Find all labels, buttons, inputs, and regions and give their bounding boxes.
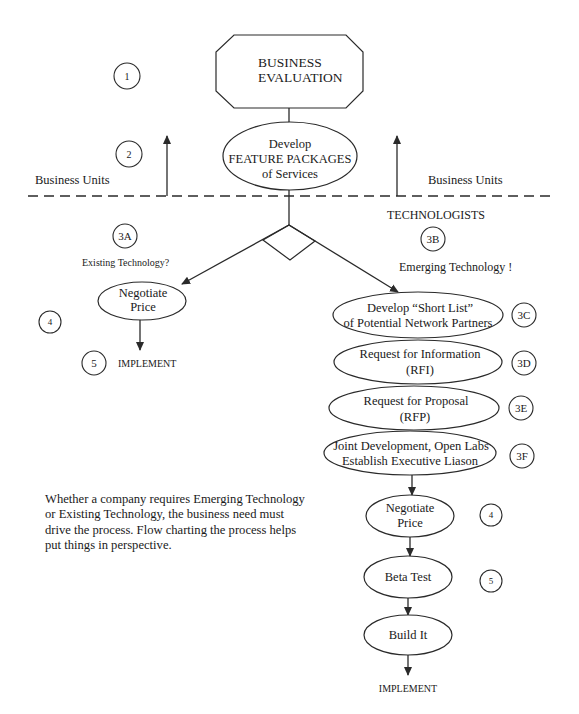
svg-text:4: 4 — [489, 510, 494, 520]
svg-text:3C: 3C — [518, 309, 531, 321]
business-evaluation-line2: EVALUATION — [258, 70, 343, 85]
svg-text:3A: 3A — [118, 230, 132, 242]
svg-text:1: 1 — [125, 71, 130, 82]
arrow-to-existing — [182, 225, 289, 284]
flowchart-canvas: BUSINESS EVALUATION 1 Develop FEATURE PA… — [0, 0, 579, 714]
svg-text:3B: 3B — [427, 233, 440, 245]
svg-text:(RFI): (RFI) — [406, 363, 434, 377]
svg-text:of Services: of Services — [262, 167, 318, 181]
step-marker-5-left: 5 — [82, 351, 106, 375]
svg-text:Beta Test: Beta Test — [385, 570, 432, 584]
business-evaluation-line1: BUSINESS — [258, 55, 322, 70]
explanatory-note: Whether a company requires Emerging Tech… — [45, 492, 345, 554]
note-line: or Existing Technology, the business nee… — [45, 507, 345, 522]
beta-test-node: Beta Test — [364, 556, 452, 598]
step-marker-3c: 3C — [512, 303, 536, 327]
step-marker-3f: 3F — [510, 444, 534, 468]
rfi-node: Request for Information (RFI) — [334, 340, 502, 384]
svg-text:Establish Executive Liason: Establish Executive Liason — [342, 454, 479, 468]
business-units-label-right: Business Units — [428, 173, 503, 187]
feature-packages-node: Develop FEATURE PACKAGES of Services — [223, 122, 357, 190]
svg-text:Request for Proposal: Request for Proposal — [364, 394, 469, 408]
svg-text:Develop: Develop — [269, 137, 311, 151]
arrow-to-emerging — [289, 225, 398, 292]
svg-text:5: 5 — [489, 576, 494, 586]
joint-development-node: Joint Development, Open Labs Establish E… — [324, 431, 496, 475]
step-marker-3b: 3B — [421, 227, 445, 251]
negotiate-price-right-node: Negotiate Price — [366, 495, 454, 537]
negotiate-price-left-node: Negotiate Price — [98, 282, 186, 320]
step-marker-1: 1 — [114, 63, 140, 89]
svg-text:Negotiate: Negotiate — [119, 286, 168, 300]
step-marker-5-right: 5 — [480, 570, 502, 592]
svg-text:3D: 3D — [517, 357, 531, 369]
svg-text:2: 2 — [127, 149, 132, 160]
short-list-node: Develop “Short List” of Potential Networ… — [333, 292, 503, 338]
step-marker-3a: 3A — [113, 224, 137, 248]
svg-text:3E: 3E — [515, 402, 528, 414]
note-line: Whether a company requires Emerging Tech… — [45, 492, 345, 507]
step-marker-3d: 3D — [512, 351, 536, 375]
emerging-technology-label: Emerging Technology ! — [399, 260, 512, 274]
svg-text:of Potential Network Partners: of Potential Network Partners — [344, 316, 493, 330]
step-marker-4-right: 4 — [480, 504, 502, 526]
existing-technology-label: Existing Technology? — [82, 257, 170, 268]
build-it-node: Build It — [364, 615, 452, 655]
svg-text:Joint Development, Open Labs: Joint Development, Open Labs — [333, 439, 489, 453]
business-evaluation-node: BUSINESS EVALUATION — [216, 35, 363, 108]
step-marker-4-left: 4 — [39, 311, 61, 333]
note-line: drive the process. Flow charting the pro… — [45, 523, 345, 538]
implement-label-left: IMPLEMENT — [118, 358, 176, 369]
svg-text:Price: Price — [130, 300, 156, 314]
svg-text:FEATURE PACKAGES: FEATURE PACKAGES — [229, 152, 352, 166]
decision-diamond — [263, 225, 315, 260]
svg-text:Price: Price — [397, 516, 423, 530]
svg-text:Build It: Build It — [389, 628, 428, 642]
step-marker-2: 2 — [116, 141, 142, 167]
svg-text:5: 5 — [91, 357, 97, 369]
svg-text:3F: 3F — [516, 450, 528, 462]
svg-text:Negotiate: Negotiate — [386, 501, 435, 515]
rfp-node: Request for Proposal (RFP) — [329, 386, 499, 430]
svg-text:Request for Information: Request for Information — [360, 347, 482, 361]
svg-text:4: 4 — [48, 317, 53, 327]
svg-text:Develop “Short List”: Develop “Short List” — [367, 301, 473, 315]
svg-text:(RFP): (RFP) — [400, 410, 431, 424]
step-marker-3e: 3E — [509, 396, 533, 420]
technologists-label: TECHNOLOGISTS — [387, 208, 485, 222]
note-line: put things in perspective. — [45, 538, 345, 553]
business-units-label-left: Business Units — [35, 173, 110, 187]
implement-label-right: IMPLEMENT — [379, 683, 437, 694]
